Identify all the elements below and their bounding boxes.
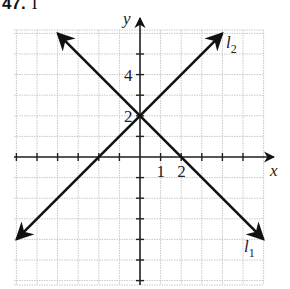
x-tick-label: 2 [177, 162, 186, 181]
axes [14, 18, 274, 285]
line-label-l2: l2 [226, 33, 237, 56]
labels: xy1224l2l1 [121, 9, 278, 260]
x-tick-label: 1 [157, 162, 166, 181]
line-label-l1: l1 [244, 237, 255, 260]
y-tick-label: 2 [124, 107, 133, 126]
x-axis-label: x [269, 161, 278, 180]
y-tick-label: 4 [124, 66, 133, 85]
y-axis-label: y [121, 9, 131, 28]
coordinate-plane-chart: xy1224l2l1 [0, 0, 290, 289]
